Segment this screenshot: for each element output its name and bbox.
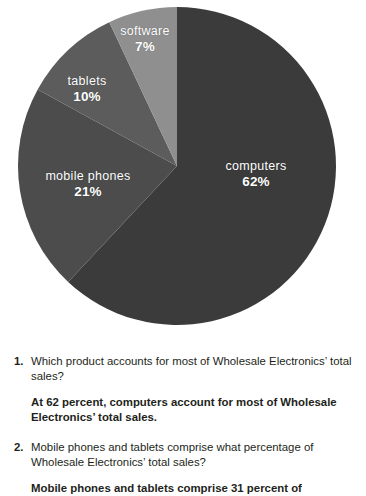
pie-slices-group [18, 7, 336, 325]
question-answer-list: 1. Which product accounts for most of Wh… [0, 340, 366, 496]
pie-chart-figure: computers 62% mobile phones 21% tablets … [0, 0, 366, 340]
question-number: 1. [14, 354, 31, 369]
question-body: Mobile phones and tablets comprise what … [31, 440, 352, 496]
answer-text: At 62 percent, computers account for mos… [31, 395, 352, 425]
question-number: 2. [14, 440, 31, 455]
question-text: Mobile phones and tablets comprise what … [31, 440, 352, 470]
question-body: Which product accounts for most of Whole… [31, 354, 352, 425]
list-item: 2. Mobile phones and tablets comprise wh… [14, 440, 352, 496]
list-item: 1. Which product accounts for most of Wh… [14, 354, 352, 425]
answer-text: Mobile phones and tablets comprise 31 pe… [31, 481, 352, 496]
pie-chart-svg [0, 0, 366, 340]
question-text: Which product accounts for most of Whole… [31, 354, 352, 384]
